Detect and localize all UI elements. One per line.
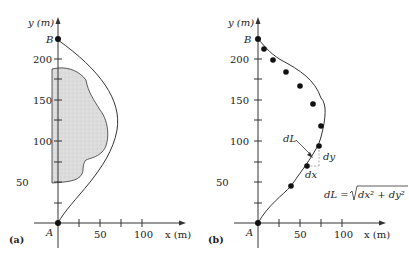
- x-axis-label: x (m): [165, 229, 191, 240]
- point-b-label: B: [45, 34, 53, 45]
- dx-label: dx: [305, 169, 317, 180]
- x-tick-50: 50: [294, 229, 307, 240]
- panel-b-tag: (b): [208, 234, 224, 245]
- panel-a: y (m) x (m) 50 100 150 200 50 100 A B (a…: [9, 17, 191, 248]
- panel-b: y (m) x (m) 50 100 150 200 50 100 A B (b…: [208, 17, 408, 248]
- y-tick-150: 150: [33, 95, 52, 106]
- x-axis-label: x (m): [364, 229, 390, 240]
- dl-label: dL: [283, 133, 296, 144]
- y-tick-100: 100: [230, 136, 249, 147]
- x-axis-arrow-icon: [379, 221, 386, 226]
- y-tick-200: 200: [33, 54, 52, 65]
- dy-label: dy: [323, 151, 335, 162]
- y-tick-200: 200: [230, 54, 249, 65]
- point-a-marker: [55, 220, 61, 226]
- x-axis-arrow-icon: [179, 221, 186, 226]
- x-tick-100: 100: [334, 229, 353, 240]
- y-axis-label: y (m): [227, 17, 254, 28]
- y-tick-100: 100: [33, 136, 52, 147]
- path-curve-discretized: [258, 39, 325, 223]
- y-axis-arrow-icon: [56, 17, 61, 24]
- point-a-label: A: [45, 227, 53, 238]
- point-a-label: A: [245, 227, 253, 238]
- point-b-marker: [55, 36, 61, 42]
- obstacle-region: [52, 68, 108, 183]
- y-tick-150: 150: [230, 95, 249, 106]
- y-axis-arrow-icon: [256, 17, 261, 24]
- x-tick-100: 100: [134, 229, 153, 240]
- panel-a-tag: (a): [9, 234, 24, 245]
- formula-lhs: dL =: [324, 189, 349, 200]
- x-tick-50: 50: [94, 229, 107, 240]
- y-axis-label: y (m): [27, 17, 54, 28]
- formula-radicand: dx² + dy²: [358, 189, 405, 200]
- y-tick-50: 50: [16, 177, 29, 188]
- point-a-marker: [255, 220, 261, 226]
- point-b-marker: [255, 36, 261, 42]
- y-tick-50: 50: [216, 177, 229, 188]
- point-b-label: B: [243, 34, 251, 45]
